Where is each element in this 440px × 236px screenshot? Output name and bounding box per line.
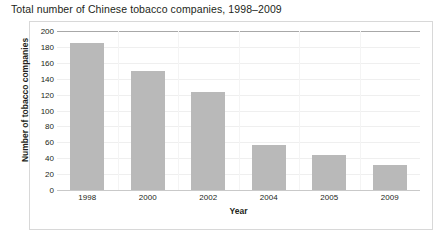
bar[interactable] bbox=[70, 43, 104, 190]
bar-slot bbox=[178, 31, 239, 190]
bar-series bbox=[57, 31, 420, 190]
bar[interactable] bbox=[131, 71, 165, 190]
y-tick-label: 0 bbox=[28, 186, 54, 195]
y-tick-label: 20 bbox=[28, 170, 54, 179]
bar-slot bbox=[239, 31, 300, 190]
x-tick-label: 2005 bbox=[320, 193, 338, 202]
x-tick-label: 2000 bbox=[139, 193, 157, 202]
bar-slot bbox=[299, 31, 360, 190]
plot-area bbox=[57, 31, 420, 190]
x-tick-label: 1998 bbox=[78, 193, 96, 202]
x-tick-label: 2004 bbox=[260, 193, 278, 202]
y-tick-label: 100 bbox=[28, 106, 54, 115]
y-axis-tick-labels: 020406080100120140160180200 bbox=[26, 31, 54, 190]
x-axis-title: Year bbox=[57, 206, 420, 216]
y-tick-label: 200 bbox=[28, 27, 54, 36]
chart-title: Total number of Chinese tobacco companie… bbox=[11, 3, 282, 15]
x-axis-tick-labels: 199820002002200420052009 bbox=[57, 193, 420, 207]
bar[interactable] bbox=[252, 145, 286, 190]
bar-slot bbox=[360, 31, 421, 190]
bar[interactable] bbox=[373, 165, 407, 190]
x-tick-label: 2009 bbox=[381, 193, 399, 202]
bar-slot bbox=[57, 31, 118, 190]
bar-slot bbox=[118, 31, 179, 190]
y-tick-label: 140 bbox=[28, 74, 54, 83]
gridline-0 bbox=[57, 190, 420, 191]
y-tick-label: 40 bbox=[28, 154, 54, 163]
bar[interactable] bbox=[312, 155, 346, 190]
y-tick-label: 80 bbox=[28, 122, 54, 131]
x-tick-label: 2002 bbox=[199, 193, 217, 202]
y-tick-label: 180 bbox=[28, 42, 54, 51]
bar[interactable] bbox=[191, 92, 225, 190]
y-tick-label: 160 bbox=[28, 58, 54, 67]
chart-figure: Total number of Chinese tobacco companie… bbox=[0, 0, 440, 236]
y-tick-label: 120 bbox=[28, 90, 54, 99]
y-tick-label: 60 bbox=[28, 138, 54, 147]
